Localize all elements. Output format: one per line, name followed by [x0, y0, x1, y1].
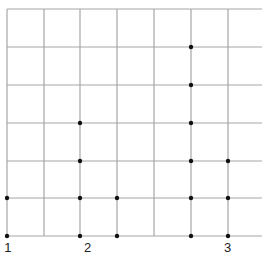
grid-dot: [189, 196, 193, 200]
grid-lines: [7, 9, 262, 236]
axis-label: : 1: [0, 241, 11, 254]
grid-dot: [78, 159, 82, 163]
grid-dot: [226, 196, 230, 200]
axis-label: 3: [224, 241, 231, 254]
grid-dot: [189, 121, 193, 125]
dot-grid-diagram: [0, 0, 262, 254]
grid-dot: [189, 83, 193, 87]
grid-dot: [115, 234, 119, 238]
grid-dot: [189, 159, 193, 163]
grid-dot: [5, 196, 9, 200]
grid-dot: [78, 121, 82, 125]
grid-dot: [226, 159, 230, 163]
grid-dot: [78, 234, 82, 238]
grid-dot: [189, 45, 193, 49]
grid-dot: [5, 234, 9, 238]
axis-label: 2: [84, 241, 91, 254]
grid-dot: [226, 234, 230, 238]
grid-dot: [189, 234, 193, 238]
grid-dot: [78, 196, 82, 200]
grid-dot: [115, 196, 119, 200]
